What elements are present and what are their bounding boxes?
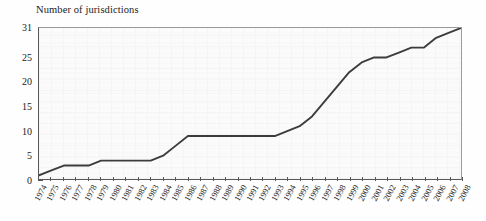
x-tick-label: 2000: [353, 183, 373, 209]
x-tick-label: 1995: [291, 183, 311, 209]
x-tick-label: 1992: [253, 183, 273, 209]
plot-area: [38, 27, 462, 180]
x-tick-label: 1980: [104, 183, 124, 209]
x-tick-label: 2007: [440, 183, 460, 209]
x-tick-label: 1990: [228, 183, 248, 209]
x-tick-label: 1991: [241, 183, 261, 209]
x-tick-label: 1986: [178, 183, 198, 209]
x-tick-label: 1996: [303, 183, 323, 209]
x-tick-label: 1977: [66, 183, 86, 209]
x-tick-label: 1998: [328, 183, 348, 209]
x-tick-label: 1993: [266, 183, 286, 209]
y-tick-label: 25: [2, 51, 32, 62]
x-tick-label: 1999: [340, 183, 360, 209]
x-tick-label: 1988: [203, 183, 223, 209]
y-tick-mark: [39, 180, 43, 181]
x-tick-mark: [462, 177, 463, 181]
x-tick-label: 1982: [128, 183, 148, 209]
x-tick-label: 2002: [378, 183, 398, 209]
x-tick-label: 2003: [390, 183, 410, 209]
x-tick-label: 1979: [91, 183, 111, 209]
y-tick-label: 31: [2, 22, 32, 33]
x-tick-label: 1983: [141, 183, 161, 209]
x-tick-label: 2005: [415, 183, 435, 209]
chart-title: Number of jurisdictions: [36, 4, 139, 15]
x-tick-label: 1997: [316, 183, 336, 209]
x-tick-label: 1984: [153, 183, 173, 209]
y-tick-label: 15: [2, 100, 32, 111]
x-tick-label: 2004: [403, 183, 423, 209]
x-tick-label: 1976: [54, 183, 74, 209]
y-tick-label: 20: [2, 76, 32, 87]
x-tick-label: 2008: [453, 183, 473, 209]
x-tick-label: 1989: [216, 183, 236, 209]
y-tick-label: 0: [2, 175, 32, 186]
x-tick-label: 1981: [116, 183, 136, 209]
x-tick-label: 2001: [365, 183, 385, 209]
x-tick-label: 1974: [29, 183, 49, 209]
y-tick-label: 10: [2, 125, 32, 136]
chart-figure: Number of jurisdictions 051015202531 197…: [0, 0, 486, 221]
x-tick-label: 2006: [428, 183, 448, 209]
x-tick-label: 1978: [79, 183, 99, 209]
y-tick-label: 5: [2, 150, 32, 161]
x-tick-label: 1987: [191, 183, 211, 209]
x-tick-label: 1994: [278, 183, 298, 209]
data-series-line: [39, 28, 461, 180]
x-tick-label: 1975: [41, 183, 61, 209]
x-tick-label: 1985: [166, 183, 186, 209]
